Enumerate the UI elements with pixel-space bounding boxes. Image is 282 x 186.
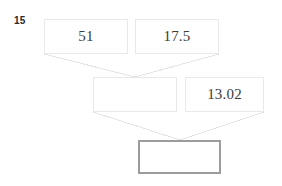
diagram-canvas: 15 5117.513.02 <box>0 0 282 186</box>
node-value: 17.5 <box>163 29 190 44</box>
edge-n3-to-n5 <box>93 112 180 140</box>
node-box-n2[interactable]: 17.5 <box>135 19 219 54</box>
node-box-n1[interactable]: 51 <box>44 19 128 54</box>
figure-label: 15 <box>14 15 26 26</box>
node-value: 13.02 <box>207 87 242 102</box>
node-value: 51 <box>78 29 93 44</box>
node-box-empty[interactable] <box>93 77 177 112</box>
node-box-empty[interactable] <box>138 140 221 174</box>
edge-n4-to-n5 <box>180 112 264 140</box>
edge-n1-to-n3 <box>44 54 135 77</box>
edge-n2-to-n3 <box>135 54 219 77</box>
node-box-n4[interactable]: 13.02 <box>185 77 264 112</box>
